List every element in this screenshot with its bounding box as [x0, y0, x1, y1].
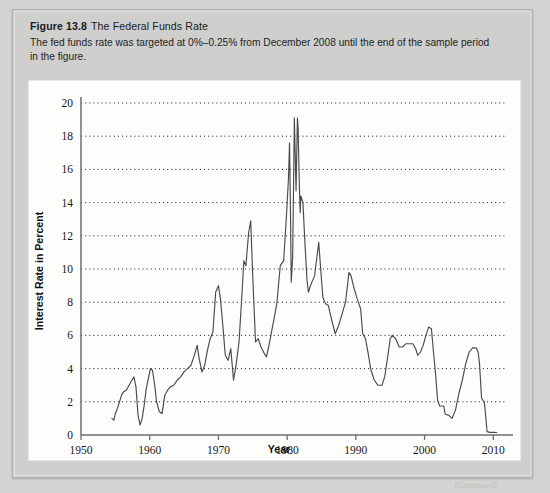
figure-panel: Figure 13.8The Federal Funds Rate The fe…: [12, 9, 533, 478]
y-tick-label-14: 14: [62, 197, 74, 209]
page-footer-note: (Continued): [455, 481, 497, 490]
federal-funds-rate-series-line: [112, 118, 497, 433]
x-tick-label-2000: 2000: [413, 444, 436, 456]
x-tick-label-1960: 1960: [138, 444, 161, 456]
x-axis-title: Year: [268, 443, 290, 455]
x-tick-label-2010: 2010: [482, 444, 505, 456]
y-axis-title: Interest Rate in Percent: [33, 211, 45, 330]
y-tick-label-4: 4: [67, 363, 73, 375]
y-tick-label-2: 2: [67, 396, 73, 408]
figure-title-text: The Federal Funds Rate: [91, 20, 208, 32]
chart-y-tick-labels: 02468101214161820: [62, 97, 74, 441]
y-tick-label-16: 16: [62, 163, 74, 175]
y-tick-label-0: 0: [67, 429, 73, 441]
x-tick-label-1950: 1950: [70, 444, 93, 456]
figure-caption-block: Figure 13.8The Federal Funds Rate The fe…: [30, 19, 510, 63]
y-tick-label-12: 12: [62, 230, 74, 242]
federal-funds-rate-line-chart: 02468101214161820 1950196019701980199020…: [29, 81, 520, 460]
y-tick-label-18: 18: [62, 130, 74, 142]
y-tick-label-20: 20: [62, 97, 74, 109]
y-tick-label-10: 10: [62, 263, 74, 275]
figure-number: Figure 13.8: [30, 20, 87, 32]
y-tick-label-6: 6: [67, 329, 73, 341]
y-tick-label-8: 8: [67, 296, 73, 308]
figure-title: Figure 13.8The Federal Funds Rate: [30, 19, 510, 33]
chart-plot-card: 02468101214161820 1950196019701980199020…: [28, 80, 521, 461]
x-tick-label-1970: 1970: [207, 444, 230, 456]
x-tick-label-1990: 1990: [344, 444, 367, 456]
figure-caption-text: The fed funds rate was targeted at 0%–0.…: [30, 36, 500, 63]
